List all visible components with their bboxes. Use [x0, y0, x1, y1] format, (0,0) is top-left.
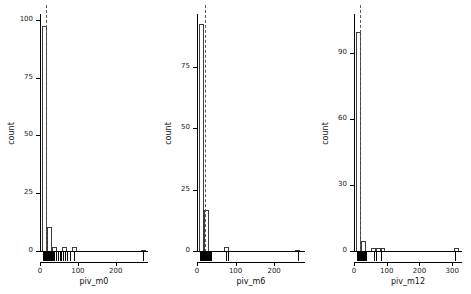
y-axis-label: count [6, 14, 16, 252]
y-axis-tick: 25 [36, 193, 40, 194]
data-region [40, 14, 148, 252]
plot-area: 0306090 [354, 14, 462, 252]
y-axis-tick-label: 25 [24, 188, 33, 197]
y-axis-tick: 25 [193, 190, 197, 191]
y-axis-tick: 100 [36, 20, 40, 21]
x-axis-baseline [354, 262, 462, 263]
rug-tick [226, 252, 227, 261]
x-axis-tick [116, 262, 117, 266]
x-axis-tick [452, 262, 453, 266]
rug-tick [228, 252, 229, 261]
x-axis-tick-label: 100 [380, 267, 393, 276]
rug-tick [455, 252, 456, 261]
y-axis-label: count [163, 14, 173, 252]
y-axis-tick-label: 50 [181, 123, 190, 132]
histogram-figure: count02550751000100200piv_m0count0255075… [0, 0, 471, 294]
x-axis-tick-label: 0 [352, 267, 356, 276]
x-axis-tick [419, 262, 420, 266]
y-axis-tick: 75 [36, 78, 40, 79]
rug-tick [61, 252, 62, 261]
y-axis-tick-label: 25 [181, 185, 190, 194]
y-axis-tick-label: 60 [338, 114, 347, 123]
y-axis-tick: 50 [36, 135, 40, 136]
rug-tick [56, 252, 57, 261]
histogram-panel-piv_m6: count02550750100200piv_m6 [157, 0, 314, 294]
rug-plot [354, 252, 462, 261]
y-axis-tick: 90 [350, 53, 354, 54]
plot-area: 0255075 [197, 14, 305, 252]
reference-line [360, 5, 361, 252]
y-axis-tick: 50 [193, 128, 197, 129]
rug-tick [366, 252, 367, 261]
x-axis-tick-label: 300 [445, 267, 458, 276]
plot-area: 0255075100 [40, 14, 148, 252]
rug-tick [381, 252, 382, 261]
rug-plot [197, 252, 305, 261]
y-axis-tick-label: 0 [29, 246, 33, 255]
x-axis-tick-label: 200 [413, 267, 426, 276]
y-axis-label-text: count [164, 122, 173, 145]
rug-tick [376, 252, 377, 261]
x-axis-tick [197, 262, 198, 266]
x-axis-baseline [40, 262, 148, 263]
y-axis-tick-label: 0 [186, 246, 190, 255]
y-axis-tick-label: 50 [24, 130, 33, 139]
x-axis-tick-label: 200 [267, 267, 280, 276]
y-axis-label: count [320, 14, 330, 252]
y-axis-tick-label: 30 [338, 180, 347, 189]
x-axis-tick [40, 262, 41, 266]
x-axis-tick-label: 0 [38, 267, 42, 276]
rug-plot [40, 252, 148, 261]
rug-tick [70, 252, 71, 261]
y-axis-tick: 30 [350, 185, 354, 186]
data-region [354, 14, 462, 252]
x-axis-label: piv_m0 [40, 277, 148, 287]
y-axis-tick-label: 75 [24, 73, 33, 82]
x-axis-tick-label: 200 [109, 267, 122, 276]
x-axis-label: piv_m6 [197, 277, 305, 287]
x-axis-tick [236, 262, 237, 266]
y-axis-tick-label: 100 [20, 15, 33, 24]
y-axis-label-text: count [321, 122, 330, 145]
y-axis-label-text: count [7, 122, 16, 145]
x-axis-tick [387, 262, 388, 266]
y-axis-tick-label: 0 [343, 246, 347, 255]
x-axis-tick [274, 262, 275, 266]
x-axis-tick-label: 0 [195, 267, 199, 276]
rug-tick [298, 252, 299, 261]
y-axis-line [197, 14, 198, 252]
x-axis-tick-label: 100 [71, 267, 84, 276]
y-axis-tick-label: 90 [338, 48, 347, 57]
y-axis-tick: 60 [350, 119, 354, 120]
reference-line [46, 5, 47, 252]
rug-tick [67, 252, 68, 261]
x-axis-baseline [197, 262, 305, 263]
x-axis-tick [78, 262, 79, 266]
y-axis-tick: 75 [193, 67, 197, 68]
y-axis-line [40, 14, 41, 252]
rug-tick [143, 252, 144, 261]
reference-line [205, 5, 206, 252]
rug-tick [74, 252, 75, 261]
x-axis-tick [354, 262, 355, 266]
data-region [197, 14, 305, 252]
histogram-panel-piv_m12: count03060900100200300piv_m12 [314, 0, 471, 294]
y-axis-tick-label: 75 [181, 62, 190, 71]
histogram-panel-piv_m0: count02550751000100200piv_m0 [0, 0, 157, 294]
rug-tick [211, 252, 212, 261]
x-axis-tick-label: 100 [229, 267, 242, 276]
x-axis-label: piv_m12 [354, 277, 462, 287]
y-axis-line [354, 14, 355, 252]
